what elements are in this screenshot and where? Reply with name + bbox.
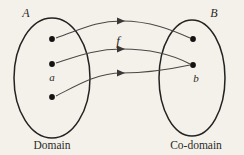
figure-canvas: A B a b f Domain Co-domain — [0, 0, 244, 155]
function-mapping-diagram: A B a b f Domain Co-domain — [0, 0, 244, 155]
domain-element-dot-1 — [49, 36, 55, 42]
domain-caption: Domain — [33, 139, 70, 151]
domain-element-label-a: a — [49, 71, 55, 83]
mapping-arrow-group — [56, 18, 190, 97]
codomain-element-dot-1 — [190, 36, 196, 42]
codomain-caption: Co-domain — [170, 139, 222, 151]
codomain-set-label: B — [210, 6, 218, 20]
function-label-f: f — [116, 33, 122, 48]
arrowhead-bottom — [117, 70, 125, 77]
arrowhead-top — [117, 18, 125, 25]
mapping-arrow-middle — [56, 49, 190, 64]
domain-element-dot-3 — [49, 94, 55, 100]
domain-set-label: A — [21, 6, 30, 20]
domain-element-dot-2 — [49, 61, 55, 67]
codomain-element-label-b: b — [193, 72, 199, 84]
codomain-element-dot-2 — [190, 62, 196, 68]
mapping-arrow-bottom — [56, 65, 190, 96]
